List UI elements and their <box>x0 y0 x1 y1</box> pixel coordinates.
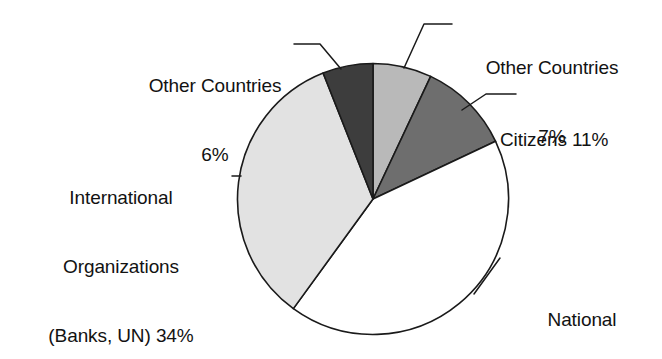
slice-label-line-1: Other Countries <box>120 74 310 97</box>
slice-label-national-government-42: National Government 42% <box>508 262 656 359</box>
slice-label-line-1: Citizens 11% <box>500 128 660 151</box>
slice-label-citizens-11: Citizens 11% <box>500 82 660 197</box>
slice-label-line-1: National <box>508 308 656 331</box>
slice-label-international-organizations-34: International Organizations (Banks, UN) … <box>10 140 232 359</box>
leader-line-other-countries-7 <box>404 24 452 68</box>
slice-label-line-3: (Banks, UN) 34% <box>10 324 232 347</box>
pie-chart-figure: Other Countries 7% Citizens 11% Other Co… <box>0 0 662 359</box>
slice-label-line-1: Other Countries <box>452 56 652 79</box>
slice-label-line-1: International <box>10 186 232 209</box>
slice-label-line-2: Organizations <box>10 255 232 278</box>
